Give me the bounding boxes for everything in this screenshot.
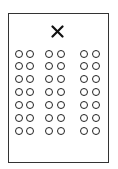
seat-circle-icon	[45, 75, 53, 83]
seat-circle-icon	[80, 75, 88, 83]
seat-circle-icon	[26, 62, 34, 70]
seat-circle-icon	[26, 101, 34, 109]
seat-circle-icon	[45, 127, 53, 135]
seat-circle-icon	[80, 101, 88, 109]
seat-circle-icon	[57, 75, 65, 83]
seat-circle-icon	[92, 101, 100, 109]
seat-circle-icon	[57, 62, 65, 70]
seat-circle-icon	[80, 50, 88, 58]
seat-circle-icon	[80, 62, 88, 70]
seat-circle-icon	[57, 88, 65, 96]
seat-circle-icon	[92, 62, 100, 70]
seat-circle-icon	[57, 101, 65, 109]
seat-circle-icon	[92, 88, 100, 96]
seat-circle-icon	[45, 88, 53, 96]
seat-circle-icon	[26, 75, 34, 83]
seat-circle-icon	[15, 127, 23, 135]
seat-circle-icon	[45, 101, 53, 109]
seat-circle-icon	[92, 127, 100, 135]
seat-circle-icon	[92, 114, 100, 122]
seat-circle-icon	[92, 75, 100, 83]
seat-circle-icon	[92, 50, 100, 58]
seat-circle-icon	[57, 114, 65, 122]
seat-circle-icon	[15, 62, 23, 70]
seat-circle-icon	[15, 101, 23, 109]
seat-circle-icon	[57, 50, 65, 58]
seat-circle-icon	[80, 88, 88, 96]
seat-circle-icon	[45, 114, 53, 122]
x-mark-icon	[51, 25, 64, 38]
seat-circle-icon	[15, 50, 23, 58]
seat-circle-icon	[26, 127, 34, 135]
seat-circle-icon	[45, 62, 53, 70]
seat-circle-icon	[45, 50, 53, 58]
seat-circle-icon	[26, 50, 34, 58]
seat-circle-icon	[26, 88, 34, 96]
seat-circle-icon	[80, 114, 88, 122]
seat-circle-icon	[15, 88, 23, 96]
seat-circle-icon	[57, 127, 65, 135]
seat-circle-icon	[26, 114, 34, 122]
seat-circle-icon	[15, 114, 23, 122]
seat-circle-icon	[80, 127, 88, 135]
seat-circle-icon	[15, 75, 23, 83]
